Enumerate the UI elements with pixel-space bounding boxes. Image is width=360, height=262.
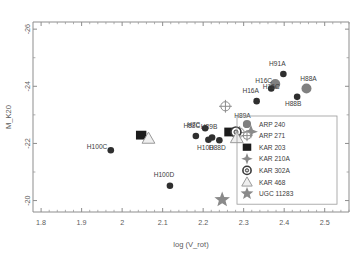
legend-label-kar-203: KAR 203 [259, 144, 286, 151]
data-point-label: H89B [201, 123, 218, 130]
x-tick-label: 2.4 [279, 218, 289, 227]
data-point-label: H88C [183, 122, 200, 129]
four-point-star-marker [241, 153, 252, 164]
x-tick-label: 1.9 [77, 218, 87, 227]
data-point-h10d [205, 136, 212, 143]
x-tick-label: 2 [120, 218, 124, 227]
legend-label-kar-302a: KAR 302A [259, 167, 290, 174]
y-tick-label: -24 [23, 81, 32, 91]
circle-small-marker [280, 71, 287, 78]
triangle-open-marker [242, 177, 252, 186]
x-tick-label: 2.2 [198, 218, 208, 227]
circle-small-marker [253, 98, 260, 105]
five-point-star-marker [214, 192, 230, 207]
circle-filled-marker [243, 120, 251, 128]
x-tick-label: 2.1 [158, 218, 168, 227]
data-point-label: H100D [154, 171, 175, 178]
x-tick-label: 2.3 [239, 218, 249, 227]
five-point-star-marker [241, 187, 254, 199]
data-point-label: H88A [300, 75, 317, 82]
circle-filled-marker [301, 84, 311, 94]
circle-small-marker [216, 137, 223, 144]
data-point-ugc-11283 [214, 192, 230, 207]
legend-label-arp-271: ARP 271 [259, 132, 286, 139]
data-point-h91a [280, 71, 287, 78]
legend-marker-kar-468[interactable] [242, 177, 252, 186]
x-tick-label: 1.8 [36, 218, 46, 227]
x-axis-title: log (V_rot) [173, 240, 209, 249]
legend-label-kar-210a: KAR 210A [259, 155, 290, 162]
y-tick-label: -20 [23, 195, 32, 205]
data-point-h100d [167, 182, 174, 189]
data-point-label: H91A [269, 60, 286, 67]
square-filled-marker [243, 144, 252, 151]
legend-marker-kar-203[interactable] [243, 144, 252, 151]
circle-small-marker [107, 147, 114, 154]
legend-label-ugc-11283: UGC 11283 [259, 190, 294, 197]
chart-canvas: 1.81.922.12.22.32.42.5-26-24-22-20log (V… [0, 0, 360, 262]
y-tick-label: -26 [23, 24, 32, 34]
y-axis-title: M_K20 [4, 105, 13, 129]
scatter-plot-figure: 1.81.922.12.22.32.42.5-26-24-22-20log (V… [0, 0, 360, 262]
legend-marker-arp-240[interactable] [243, 120, 251, 128]
donut-inner [245, 169, 248, 172]
data-point-h100c [107, 147, 114, 154]
data-point-label: H16A [242, 87, 259, 94]
data-point-label: H100C [87, 143, 108, 150]
data-point-h16a [253, 98, 260, 105]
legend-marker-ugc-11283[interactable] [241, 187, 254, 199]
circle-small-marker [167, 182, 174, 189]
legend-label-kar-468: KAR 468 [259, 179, 286, 186]
legend-label-arp-240: ARP 240 [259, 121, 286, 128]
data-point-h88a [301, 84, 311, 94]
data-point-label: H88D [209, 144, 226, 151]
data-point-label: H88B [285, 100, 302, 107]
x-tick-label: 2.5 [320, 218, 330, 227]
circle-small-marker [193, 133, 200, 140]
axis-spines [33, 22, 349, 212]
legend-marker-kar-210a[interactable] [241, 153, 252, 164]
data-point-arp-271 [219, 100, 232, 113]
circle-small-marker [205, 136, 212, 143]
legend-marker-kar-302a[interactable] [243, 166, 251, 174]
data-point-h88c [193, 133, 200, 140]
data-point-label: H16C [263, 83, 280, 90]
data-point-h88d [216, 137, 223, 144]
y-tick-label: -22 [23, 138, 32, 148]
